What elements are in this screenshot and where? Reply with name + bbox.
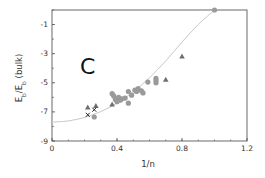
data-point-circle (126, 89, 131, 94)
data-point-triangle (179, 54, 185, 59)
x-tick-label: 0.4 (111, 144, 123, 153)
y-axis-ticks: -9-7-5-3-1 (41, 10, 55, 146)
scatter-chart: 00.40.81.2 -9-7-5-3-1 C 1/n Eb/Eb (bulk) (0, 0, 265, 178)
data-point-triangle (109, 102, 115, 107)
panel-label: C (80, 54, 95, 79)
x-axis-ticks: 00.40.81.2 (50, 138, 254, 153)
y-axis-title: Eb/Eb (bulk) (14, 54, 27, 103)
data-point-circle (92, 114, 97, 119)
y-tick-label: -3 (41, 49, 49, 58)
data-point-x (92, 108, 96, 112)
y-tick-label: -9 (41, 137, 49, 146)
x-tick-label: 0.8 (176, 144, 188, 153)
y-tick-label: -5 (41, 78, 49, 87)
x-tick-label: 0 (50, 144, 55, 153)
data-point-circle (212, 7, 217, 12)
data-point-circle (153, 80, 158, 85)
data-point-triangle (85, 105, 91, 110)
data-point-circle (126, 101, 131, 106)
data-point-triangle (163, 77, 169, 82)
data-point-circle (110, 91, 115, 96)
x-axis-title: 1/n (141, 159, 155, 169)
data-point-circle (132, 87, 137, 92)
x-tick-label: 1.2 (241, 144, 253, 153)
fit-curve (52, 10, 215, 122)
y-tick-label: -1 (41, 20, 49, 29)
data-points (85, 7, 217, 119)
y-tick-label: -7 (41, 107, 49, 116)
data-point-circle (145, 79, 150, 84)
data-point-triangle (93, 103, 99, 108)
